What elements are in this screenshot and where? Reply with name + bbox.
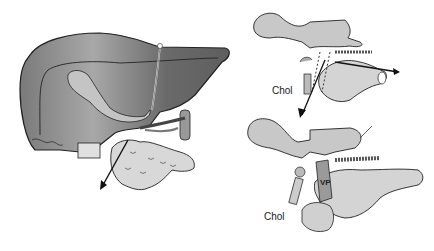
chol-label-top: Chol [272, 85, 293, 96]
pancreas-bottom-illustration [240, 110, 434, 251]
liver-illustration [0, 0, 240, 251]
vp-label: VP [320, 178, 331, 187]
bottom-right-panel: Chol VP [240, 110, 434, 251]
pancreas-top-illustration [240, 0, 434, 125]
liver-panel [0, 0, 240, 251]
chol-label-bottom: Chol [264, 211, 285, 222]
top-right-panel: Chol [240, 0, 434, 125]
